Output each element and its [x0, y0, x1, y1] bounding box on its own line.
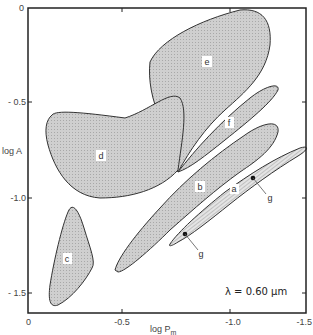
x-tick-0: 0 [26, 317, 31, 327]
point-g-upper-label: g [267, 193, 272, 203]
y-tick-neg05: - 0.5 [8, 97, 26, 107]
region-d-label: d [98, 151, 103, 161]
chart: 0 -0.5 -1.0 -1.5 0 - 0.5 -1.0 - 1.5 log … [0, 0, 313, 335]
x-axis-label-subscript: m [171, 329, 177, 335]
y-axis-label: log A [2, 146, 22, 156]
region-b-label: b [197, 182, 202, 192]
y-tick-0: 0 [19, 3, 24, 13]
wavelength-annotation: λ = 0.60 μm [225, 286, 287, 297]
region-d [46, 96, 184, 198]
region-a-label: a [231, 184, 236, 194]
x-tick-neg15: -1.5 [296, 317, 312, 327]
point-g-lower-label: g [198, 249, 203, 259]
x-tick-neg10: -1.0 [225, 317, 241, 327]
region-e-label: e [204, 57, 209, 67]
x-axis-label: log Pm [150, 324, 177, 335]
region-c-label: c [65, 254, 70, 264]
y-tick-neg10: -1.0 [10, 193, 26, 203]
x-tick-neg05: -0.5 [114, 317, 130, 327]
y-tick-neg15: - 1.5 [8, 288, 26, 298]
